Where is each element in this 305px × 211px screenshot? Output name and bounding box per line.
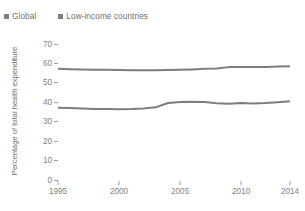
- x-axis-tick-label: 2010: [221, 187, 261, 196]
- x-axis-tick-label: 2000: [99, 187, 139, 196]
- x-axis-tick-mark: [119, 181, 120, 185]
- x-axis-tick-mark: [180, 181, 181, 185]
- series-line-low-income-countries: [58, 101, 290, 109]
- x-axis-tick-label: 2014: [270, 187, 305, 196]
- plot-area: [58, 44, 290, 180]
- x-axis-tick-mark: [241, 181, 242, 185]
- x-axis-tick-mark: [58, 181, 59, 185]
- x-axis-tick-label: 2005: [160, 187, 200, 196]
- series-line-global: [58, 66, 290, 70]
- x-axis-tick-label: 1995: [38, 187, 78, 196]
- x-axis-tick-mark: [290, 181, 291, 185]
- chart-figure: Global Low-income countries Percentage o…: [0, 0, 305, 211]
- plot-svg: [58, 44, 290, 180]
